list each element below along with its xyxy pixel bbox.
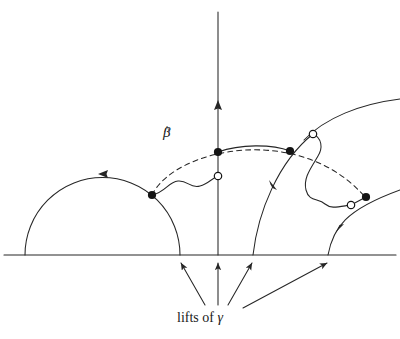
open-dot-lower-right <box>347 201 354 208</box>
gamma-glyph: γ <box>217 310 223 325</box>
caption-text: lifts of <box>177 310 217 325</box>
far-geodesic-arc <box>304 99 400 140</box>
beta-hat-label: ^β <box>163 124 170 141</box>
arrow-to-x253 <box>228 263 252 305</box>
beta-hat-dashed-geodesic <box>152 150 365 197</box>
arrowhead-vertical-axis-icon <box>214 100 222 110</box>
filled-dot-left <box>148 191 156 199</box>
caption-lifts-of-gamma: lifts of γ <box>0 310 400 326</box>
hat-accent-icon: ^ <box>164 122 170 138</box>
filled-dot-mid-right <box>286 147 294 155</box>
filled-dot-right <box>362 193 370 201</box>
wiggle-path-left <box>152 176 218 195</box>
arrow-to-x180 <box>181 263 205 305</box>
beta-hat-solid-arc-segment <box>218 146 290 152</box>
open-dot-center <box>214 172 221 179</box>
arrowhead-right-arc-icon <box>335 224 344 233</box>
open-dot-upper-right <box>309 130 316 137</box>
arrow-to-x328 <box>243 263 327 308</box>
wiggle-path-right <box>305 134 351 207</box>
filled-dot-axis <box>214 148 222 156</box>
hyperbolic-lift-diagram <box>0 0 400 339</box>
curve-direction-markers <box>98 100 344 233</box>
arrowhead-left-semicircle-icon <box>98 170 108 178</box>
left-semicircle-geodesic <box>25 178 180 256</box>
figure-canvas: ^β lifts of γ <box>0 0 400 339</box>
point-markers <box>148 130 370 208</box>
